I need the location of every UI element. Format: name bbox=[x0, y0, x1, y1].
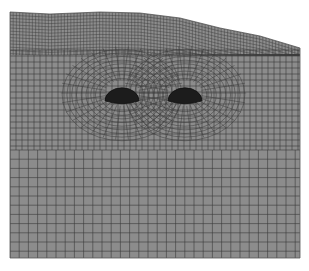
fe-mesh-figure bbox=[0, 0, 309, 271]
mesh-domain bbox=[10, 12, 300, 258]
